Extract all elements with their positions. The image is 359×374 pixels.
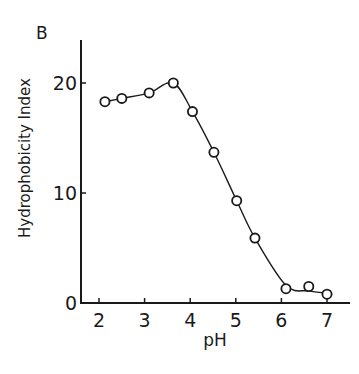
x-tick-label: 6 [275,309,287,331]
y-tick-label: 20 [53,72,77,94]
hydrophobicity-chart: B Hydrophobicity Index pH 01020 234567 [0,0,359,374]
data-markers [100,78,331,298]
data-point-marker [250,234,259,243]
fit-curve [105,82,327,293]
data-point-marker [117,94,126,103]
panel-label: B [36,23,48,43]
data-point-marker [169,78,178,87]
x-tick-label: 7 [321,309,333,331]
y-axis-title: Hydrophobicity Index [16,78,34,238]
data-point-marker [232,196,241,205]
x-axis-title: pH [203,330,227,350]
x-tick-label: 4 [184,309,196,331]
data-point-marker [188,107,197,116]
x-tick-label: 2 [93,309,105,331]
y-tick-label: 0 [65,292,77,314]
data-point-marker [209,148,218,157]
data-point-marker [322,290,331,299]
y-axis-title-group: Hydrophobicity Index [16,78,34,238]
data-point-marker [145,88,154,97]
data-point-marker [281,284,290,293]
x-tick-label: 3 [139,309,151,331]
x-tick-label: 5 [230,309,242,331]
data-point-marker [304,282,313,291]
y-tick-label: 10 [53,182,77,204]
data-point-marker [100,97,109,106]
